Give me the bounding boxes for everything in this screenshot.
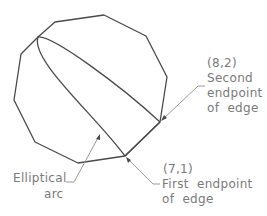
elliptical-arc-label-line2: arc — [44, 187, 64, 201]
arrowhead-first-endpoint — [126, 157, 131, 163]
second-endpoint-label-line3: of edge — [207, 101, 259, 115]
second-endpoint-label-line2: endpoint — [207, 86, 263, 100]
first-endpoint-coord: (7,1) — [163, 162, 193, 176]
arrowhead-elliptical-arc — [96, 134, 100, 140]
first-endpoint-label-line1: First endpoint — [162, 177, 253, 191]
diagram-canvas: (8,2) Second endpoint of edge (7,1) Firs… — [0, 0, 267, 216]
decagon-outline — [14, 15, 167, 163]
second-endpoint-label-line1: Second — [207, 71, 253, 85]
first-endpoint-label-line2: of edge — [162, 192, 214, 206]
second-endpoint-coord: (8,2) — [207, 56, 237, 70]
leader-first-endpoint — [127, 158, 160, 184]
polygon-edge — [125, 122, 160, 156]
elliptical-arc-label-line1: Elliptical — [13, 171, 67, 185]
leader-second-endpoint — [162, 86, 205, 120]
